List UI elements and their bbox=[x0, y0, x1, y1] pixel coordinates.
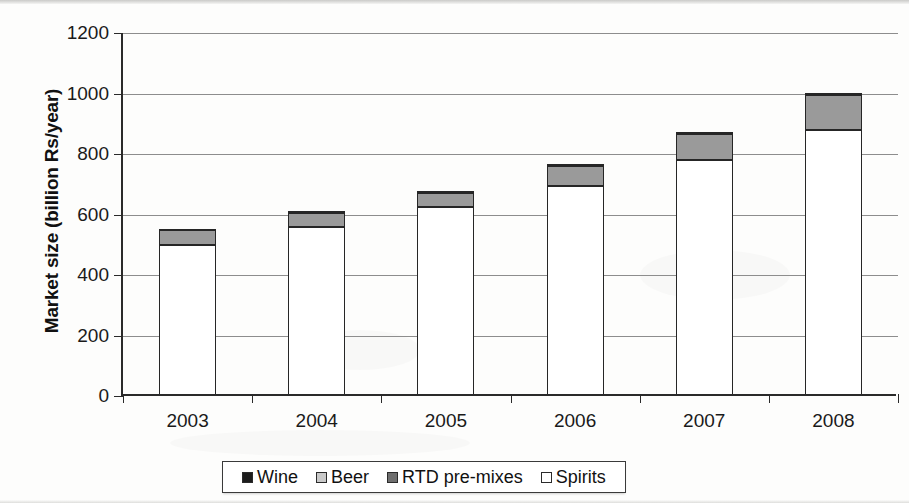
x-axis-tick bbox=[640, 394, 641, 403]
legend-item-beer[interactable]: Beer bbox=[316, 467, 369, 488]
legend-item-rtd-pre-mixes[interactable]: RTD pre-mixes bbox=[387, 467, 523, 488]
chart-legend: WineBeerRTD pre-mixesSpirits bbox=[222, 461, 626, 493]
plot-area: 0200400600800100012002003200420052006200… bbox=[121, 33, 896, 396]
gridline bbox=[123, 275, 898, 276]
bar-segment-divider bbox=[805, 94, 862, 96]
y-axis-tick-label: 400 bbox=[77, 264, 109, 286]
bar-segment-beer[interactable] bbox=[676, 135, 733, 161]
bar-segment-spirits[interactable] bbox=[159, 246, 216, 394]
bar-segment-divider bbox=[159, 244, 216, 246]
bar-segment-divider bbox=[288, 212, 345, 214]
bar-segment-divider bbox=[547, 166, 604, 168]
gridline bbox=[123, 33, 898, 34]
scan-artifact-top bbox=[0, 0, 909, 4]
y-axis-tick bbox=[114, 396, 123, 397]
y-axis-tick-label: 200 bbox=[77, 325, 109, 347]
bar-segment-divider bbox=[547, 185, 604, 187]
bar-segment-spirits[interactable] bbox=[805, 131, 862, 394]
bar-2005[interactable] bbox=[417, 193, 474, 394]
bar-segment-beer[interactable] bbox=[805, 96, 862, 131]
paper-blotch bbox=[170, 430, 470, 456]
legend-label: RTD pre-mixes bbox=[402, 467, 523, 488]
legend-label: Beer bbox=[331, 467, 369, 488]
y-axis-tick-label: 1200 bbox=[67, 22, 109, 44]
bar-segment-divider bbox=[417, 206, 474, 208]
bar-segment-divider bbox=[676, 159, 733, 161]
x-axis-tick bbox=[252, 394, 253, 403]
y-axis-tick-label: 800 bbox=[77, 143, 109, 165]
bar-segment-spirits[interactable] bbox=[288, 228, 345, 394]
bar-segment-divider bbox=[417, 193, 474, 195]
x-axis-tick bbox=[769, 394, 770, 403]
x-axis-tick-label: 2007 bbox=[683, 410, 725, 432]
gridline bbox=[123, 94, 898, 95]
x-axis-tick-label: 2005 bbox=[425, 410, 467, 432]
legend-item-spirits[interactable]: Spirits bbox=[541, 467, 606, 488]
x-axis-tick bbox=[511, 394, 512, 403]
legend-label: Spirits bbox=[556, 467, 606, 488]
bar-top-outline bbox=[159, 229, 216, 231]
bar-segment-spirits[interactable] bbox=[676, 161, 733, 394]
x-axis-tick-label: 2006 bbox=[554, 410, 596, 432]
x-axis-tick-label: 2008 bbox=[812, 410, 854, 432]
gridline bbox=[123, 215, 898, 216]
legend-label: Wine bbox=[257, 467, 298, 488]
bar-segment-divider bbox=[805, 129, 862, 131]
x-axis-tick bbox=[381, 394, 382, 403]
bar-2007[interactable] bbox=[676, 134, 733, 394]
x-axis-tick bbox=[123, 394, 124, 403]
y-axis-tick-label: 0 bbox=[98, 385, 109, 407]
bar-2003[interactable] bbox=[159, 231, 216, 394]
bar-segment-divider bbox=[288, 226, 345, 228]
x-axis-tick-label: 2004 bbox=[296, 410, 338, 432]
gridline bbox=[123, 336, 898, 337]
y-axis-title: Market size (billion Rs/year) bbox=[41, 26, 63, 396]
bar-2008[interactable] bbox=[805, 95, 862, 394]
legend-item-wine[interactable]: Wine bbox=[242, 467, 298, 488]
x-axis-tick-label: 2003 bbox=[166, 410, 208, 432]
y-axis-tick bbox=[114, 275, 123, 276]
legend-swatch-icon bbox=[316, 472, 327, 483]
legend-swatch-icon bbox=[387, 472, 398, 483]
legend-swatch-icon bbox=[242, 472, 253, 483]
gridline bbox=[123, 154, 898, 155]
y-axis-tick-label: 1000 bbox=[67, 83, 109, 105]
y-axis-tick bbox=[114, 94, 123, 95]
y-axis-tick bbox=[114, 33, 123, 34]
y-axis-tick bbox=[114, 154, 123, 155]
y-axis-tick bbox=[114, 336, 123, 337]
legend-swatch-icon bbox=[541, 472, 552, 483]
y-axis-tick bbox=[114, 215, 123, 216]
y-axis-tick-label: 600 bbox=[77, 204, 109, 226]
bar-2006[interactable] bbox=[547, 166, 604, 394]
bar-segment-divider bbox=[676, 134, 733, 136]
x-axis-tick bbox=[898, 394, 899, 403]
bar-2004[interactable] bbox=[288, 213, 345, 395]
bar-segment-beer[interactable] bbox=[547, 167, 604, 187]
bar-segment-spirits[interactable] bbox=[417, 208, 474, 394]
bar-segment-spirits[interactable] bbox=[547, 187, 604, 394]
chart-figure: Market size (billion Rs/year) 0200400600… bbox=[0, 0, 909, 503]
